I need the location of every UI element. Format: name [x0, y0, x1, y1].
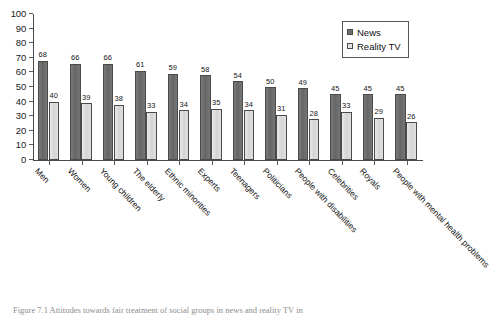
legend-item-label: News — [357, 27, 381, 38]
bar-value-label: 26 — [400, 113, 422, 121]
y-axis-tick: 50 — [0, 81, 33, 93]
x-axis-tick-mark — [147, 161, 148, 165]
bar-group: 6133 — [135, 14, 157, 160]
y-axis-tick-label: 30 — [16, 110, 26, 122]
y-axis-tick: 90 — [0, 23, 33, 35]
x-axis-line — [33, 160, 423, 161]
bar-value-label: 49 — [292, 79, 314, 87]
bar-value-label: 50 — [259, 78, 281, 86]
bar-reality-tv[interactable] — [179, 110, 190, 160]
bar-reality-tv[interactable] — [406, 122, 417, 160]
bar-value-label: 38 — [108, 95, 130, 103]
bar-news[interactable] — [103, 64, 114, 160]
x-axis-tick-mark — [179, 161, 180, 165]
bar-chart: 0102030405060708090100 68406639663861335… — [0, 0, 435, 300]
bar-group: 5835 — [200, 14, 222, 160]
bar-value-label: 59 — [162, 64, 184, 72]
y-axis-tick-label: 100 — [11, 8, 26, 20]
y-axis-tick-label: 0 — [21, 154, 26, 166]
bar-news[interactable] — [38, 61, 49, 160]
bar-news[interactable] — [135, 71, 146, 160]
bar-value-label: 45 — [357, 85, 379, 93]
bar-value-label: 45 — [324, 85, 346, 93]
bar-value-label: 61 — [129, 61, 151, 69]
bar-value-label: 28 — [303, 110, 325, 118]
bar-value-label: 35 — [205, 99, 227, 107]
x-axis-tick-mark — [244, 161, 245, 165]
bar-news[interactable] — [265, 87, 276, 160]
x-axis-category-label: Experts — [196, 166, 223, 194]
bar-value-label: 31 — [270, 105, 292, 113]
y-axis-tick: 30 — [0, 110, 33, 122]
bar-group: 5434 — [233, 14, 255, 160]
x-axis-tick-mark — [342, 161, 343, 165]
x-axis-tick-mark — [277, 161, 278, 165]
x-axis-category-label: People with disabilities — [293, 166, 360, 234]
bar-news[interactable] — [168, 74, 179, 160]
bar-reality-tv[interactable] — [114, 105, 125, 160]
bar-value-label: 45 — [389, 85, 411, 93]
legend-item-news[interactable]: News — [347, 25, 401, 39]
y-axis-tick: 80 — [0, 37, 33, 49]
x-axis-category-label: Men — [33, 166, 52, 185]
y-axis-tick-label: 40 — [16, 96, 26, 108]
y-axis-tick-label: 60 — [16, 66, 26, 78]
figure-caption: Figure 7.1 Attitudes towards fair treatm… — [13, 305, 425, 316]
y-axis-tick: 20 — [0, 125, 33, 137]
x-axis-tick-mark — [212, 161, 213, 165]
chart-legend: NewsReality TV — [342, 21, 409, 58]
bar-reality-tv[interactable] — [49, 102, 60, 160]
bar-value-label: 33 — [140, 102, 162, 110]
y-axis-tick: 70 — [0, 52, 33, 64]
y-axis-tick: 100 — [0, 8, 33, 20]
bar-value-label: 68 — [32, 51, 54, 59]
legend-item-label: Reality TV — [357, 41, 401, 52]
bar-group: 6638 — [103, 14, 125, 160]
bar-reality-tv[interactable] — [81, 103, 92, 160]
y-axis-tick: 60 — [0, 66, 33, 78]
bar-reality-tv[interactable] — [341, 112, 352, 160]
bar-value-label: 66 — [64, 54, 86, 62]
bar-reality-tv[interactable] — [309, 119, 320, 160]
bar-news[interactable] — [395, 94, 406, 160]
bar-reality-tv[interactable] — [374, 118, 385, 160]
legend-swatch-icon — [347, 29, 353, 35]
y-axis-tick-label: 70 — [16, 52, 26, 64]
legend-swatch-icon — [347, 43, 353, 49]
bar-value-label: 58 — [194, 66, 216, 74]
x-axis-tick-mark — [114, 161, 115, 165]
bar-value-label: 39 — [75, 94, 97, 102]
bar-news[interactable] — [200, 75, 211, 160]
bar-group: 5031 — [265, 14, 287, 160]
bar-news[interactable] — [233, 81, 244, 160]
bar-news[interactable] — [363, 94, 374, 160]
y-axis-tick: 0 — [0, 154, 33, 166]
x-axis-category-label: Royals — [358, 166, 383, 192]
bar-value-label: 29 — [368, 108, 390, 116]
bar-group: 6840 — [38, 14, 60, 160]
x-axis-tick-mark — [82, 161, 83, 165]
bar-value-label: 33 — [335, 102, 357, 110]
bar-value-label: 34 — [173, 101, 195, 109]
bar-group: 6639 — [70, 14, 92, 160]
bar-news[interactable] — [298, 88, 309, 160]
bar-group: 4928 — [298, 14, 320, 160]
bar-reality-tv[interactable] — [244, 110, 255, 160]
y-axis-tick: 40 — [0, 96, 33, 108]
bar-value-label: 40 — [43, 92, 65, 100]
x-axis-category-label: People with mental health problems — [391, 166, 491, 270]
bar-reality-tv[interactable] — [276, 115, 287, 160]
bar-reality-tv[interactable] — [146, 112, 157, 160]
bar-news[interactable] — [70, 64, 81, 160]
y-axis-tick-label: 90 — [16, 23, 26, 35]
legend-item-reality-tv[interactable]: Reality TV — [347, 39, 401, 53]
bar-reality-tv[interactable] — [211, 109, 222, 160]
y-axis-tick-label: 80 — [16, 37, 26, 49]
x-axis-category-label: Politicians — [261, 166, 295, 200]
x-axis-category-label: Women — [66, 166, 93, 194]
x-axis-tick-mark — [49, 161, 50, 165]
x-axis-category-label: Teenagers — [228, 166, 263, 202]
bar-value-label: 66 — [97, 54, 119, 62]
x-axis-tick-mark — [374, 161, 375, 165]
